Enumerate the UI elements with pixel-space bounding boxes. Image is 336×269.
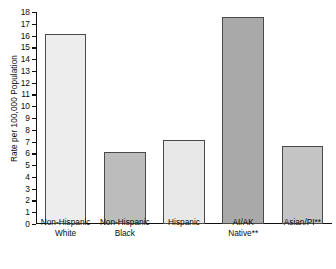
bar-2: [104, 152, 145, 224]
x-label-line: Black: [95, 228, 154, 239]
x-label-line: AI/AK: [214, 217, 273, 228]
y-tick-mark: [32, 71, 37, 72]
x-axis-label-2: Non-HispanicBlack: [95, 217, 154, 238]
bar-5: [282, 146, 323, 224]
y-tick-mark: [32, 118, 37, 119]
y-tick-mark: [32, 83, 37, 84]
y-axis-line: [36, 12, 37, 224]
y-tick-mark: [32, 24, 37, 25]
bar-3: [163, 140, 204, 224]
y-tick-label: 0: [0, 220, 30, 228]
y-tick-mark: [32, 153, 37, 154]
x-label-line: White: [36, 228, 95, 239]
y-tick-mark: [32, 59, 37, 60]
x-axis-label-3: Hispanic: [154, 217, 213, 228]
y-tick-label: 12: [0, 78, 30, 86]
y-tick-label: 13: [0, 67, 30, 75]
y-tick-mark: [32, 106, 37, 107]
x-label-line: Non-Hispanic: [95, 217, 154, 228]
y-tick-mark: [32, 47, 37, 48]
y-tick-mark: [32, 142, 37, 143]
y-tick-label: 17: [0, 19, 30, 27]
y-tick-label: 18: [0, 8, 30, 16]
y-tick-mark: [32, 200, 37, 201]
y-tick-mark: [32, 130, 37, 131]
x-axis-label-1: Non-HispanicWhite: [36, 217, 95, 238]
plot-area: 0123456789101112131415161718: [36, 12, 332, 224]
x-label-line: Non-Hispanic: [36, 217, 95, 228]
y-tick-mark: [32, 36, 37, 37]
y-tick-label: 4: [0, 173, 30, 181]
bar-1: [45, 34, 86, 224]
y-tick-mark: [32, 212, 37, 213]
x-axis-label-4: AI/AKNative**: [214, 217, 273, 238]
y-tick-label: 8: [0, 125, 30, 133]
y-tick-label: 11: [0, 90, 30, 98]
y-tick-label: 2: [0, 196, 30, 204]
x-label-line: Native**: [214, 228, 273, 239]
y-tick-mark: [32, 94, 37, 95]
y-tick-mark: [32, 189, 37, 190]
x-label-line: Hispanic: [154, 217, 213, 228]
y-tick-mark: [32, 177, 37, 178]
x-axis-label-5: Asian/PI**: [273, 217, 332, 228]
y-tick-label: 3: [0, 184, 30, 192]
bar-chart: Rate per 100,000 Population 012345678910…: [0, 0, 336, 269]
x-label-line: Asian/PI**: [273, 217, 332, 228]
y-tick-label: 16: [0, 31, 30, 39]
y-tick-label: 10: [0, 102, 30, 110]
y-tick-label: 7: [0, 137, 30, 145]
y-tick-label: 6: [0, 149, 30, 157]
y-tick-mark: [32, 165, 37, 166]
y-tick-label: 14: [0, 55, 30, 63]
bar-4: [222, 17, 263, 224]
y-tick-label: 1: [0, 208, 30, 216]
y-tick-label: 9: [0, 114, 30, 122]
y-tick-label: 15: [0, 43, 30, 51]
y-tick-label: 5: [0, 161, 30, 169]
y-tick-mark: [32, 12, 37, 13]
